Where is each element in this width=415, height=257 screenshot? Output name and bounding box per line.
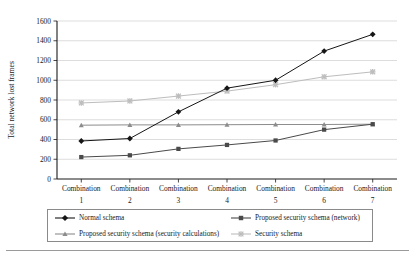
- x-tick-label: 7: [371, 196, 375, 205]
- legend-marker-triangle-icon: [54, 228, 76, 240]
- data-point-square: [273, 138, 277, 142]
- chart-figure: 02004006008001000120014001600Combination…: [0, 0, 415, 257]
- legend-row-2: Proposed security schema (security calcu…: [48, 226, 372, 242]
- data-point-diamond: [62, 215, 68, 221]
- data-point-cross: [370, 69, 376, 75]
- y-tick-label: 1600: [36, 17, 51, 26]
- legend-entry-security-schema: Security schema: [230, 226, 370, 242]
- data-point-square: [322, 128, 326, 132]
- data-point-diamond: [127, 136, 133, 142]
- x-tick-label: Combination: [353, 184, 392, 193]
- x-tick-label: Combination: [159, 184, 198, 193]
- y-tick-label: 800: [40, 96, 51, 105]
- y-axis-title: Total network lost frames: [7, 61, 16, 139]
- footer-rule: [6, 250, 409, 251]
- legend-label: Proposed security schema (network): [255, 214, 360, 223]
- legend-marker-square-icon: [230, 212, 252, 224]
- y-tick-label: 1400: [36, 36, 51, 45]
- data-point-diamond: [370, 31, 376, 37]
- legend-marker-diamond-icon: [54, 212, 76, 224]
- x-tick-label: 6: [322, 196, 326, 205]
- x-tick-label: 3: [177, 196, 181, 205]
- x-tick-label: Combination: [256, 184, 295, 193]
- y-tick-label: 400: [40, 135, 51, 144]
- data-point-cross: [79, 100, 85, 106]
- legend-label: Normal schema: [79, 214, 124, 223]
- data-point-cross: [127, 98, 133, 104]
- x-tick-label: Combination: [62, 184, 101, 193]
- data-point-square: [176, 147, 180, 151]
- y-tick-label: 1000: [36, 76, 51, 85]
- legend-row-1: Normal schema Proposed security schema (…: [48, 210, 372, 226]
- x-tick-label: 5: [274, 196, 278, 205]
- data-point-diamond: [176, 109, 182, 115]
- x-tick-label: Combination: [208, 184, 247, 193]
- data-point-square: [371, 122, 375, 126]
- y-tick-label: 200: [40, 155, 51, 164]
- x-tick-label: Combination: [305, 184, 344, 193]
- x-tick-label: 2: [128, 196, 132, 205]
- data-point-cross: [238, 231, 244, 237]
- x-tick-label: Combination: [111, 184, 150, 193]
- data-point-cross: [176, 93, 182, 99]
- legend-entry-normal-schema: Normal schema: [54, 210, 230, 226]
- legend-entry-proposed-network: Proposed security schema (network): [230, 210, 370, 226]
- data-point-square: [225, 143, 229, 147]
- legend-entry-proposed-calculations: Proposed security schema (security calcu…: [54, 226, 230, 242]
- x-tick-label: 1: [79, 196, 83, 205]
- x-tick-label: 4: [225, 196, 229, 205]
- legend-label: Proposed security schema (security calcu…: [79, 230, 219, 239]
- data-point-cross: [321, 74, 327, 80]
- line-chart: 02004006008001000120014001600Combination…: [0, 0, 415, 205]
- data-point-square: [128, 153, 132, 157]
- chart-legend: Normal schema Proposed security schema (…: [47, 209, 373, 242]
- data-point-square: [79, 155, 83, 159]
- series-line: [81, 124, 372, 157]
- data-point-diamond: [224, 85, 230, 91]
- y-tick-label: 0: [47, 175, 51, 184]
- data-point-square: [239, 216, 243, 220]
- legend-marker-cross-icon: [230, 228, 252, 240]
- y-tick-label: 600: [40, 115, 51, 124]
- plot-area: 02004006008001000120014001600Combination…: [0, 0, 415, 205]
- legend-label: Security schema: [255, 230, 302, 239]
- data-point-diamond: [78, 138, 84, 144]
- y-tick-label: 1200: [36, 56, 51, 65]
- data-point-diamond: [321, 48, 327, 54]
